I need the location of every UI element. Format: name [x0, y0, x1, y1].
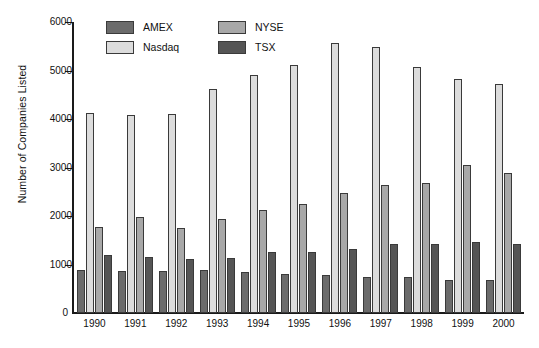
bar-amex-1990: [77, 270, 85, 313]
bar-amex-1996: [322, 275, 330, 313]
bar-nasdaq-1996: [331, 43, 339, 313]
bar-nyse-1998: [422, 183, 430, 313]
bar-tsx-1995: [308, 252, 316, 313]
x-axis-label: 1993: [197, 318, 238, 329]
bar-nasdaq-1990: [86, 113, 94, 313]
bar-amex-1992: [159, 271, 167, 313]
x-axis-label: 1995: [279, 318, 320, 329]
legend-item-nasdaq: Nasdaq: [106, 38, 204, 56]
bar-tsx-1990: [104, 255, 112, 313]
bar-group: [279, 22, 320, 313]
legend-swatch-nasdaq: [106, 41, 134, 54]
bar-group: [360, 22, 401, 313]
y-axis-tick-label: 3000: [38, 163, 72, 173]
bar-nasdaq-1991: [127, 115, 135, 313]
y-axis-tick-label: 1000: [38, 260, 72, 270]
bar-group: [115, 22, 156, 313]
legend-item-nyse: NYSE: [218, 18, 316, 36]
chart-legend: AMEXNYSENasdaqTSX: [106, 18, 316, 56]
bar-group: [319, 22, 360, 313]
bar-nyse-1990: [95, 227, 103, 313]
bar-amex-1997: [363, 277, 371, 313]
x-axis-labels: 1990199119921993199419951996199719981999…: [74, 318, 524, 329]
bar-group: [401, 22, 442, 313]
y-axis-zero-label: 0: [52, 307, 68, 318]
bar-group: [197, 22, 238, 313]
bar-group: [74, 22, 115, 313]
y-axis-tick-label: 4000: [38, 114, 72, 124]
bar-amex-1995: [281, 274, 289, 313]
legend-label: NYSE: [255, 21, 284, 33]
y-axis-tick-label: 5000: [38, 66, 72, 76]
bar-tsx-1991: [145, 257, 153, 313]
x-axis-label: 1990: [74, 318, 115, 329]
legend-item-tsx: TSX: [218, 38, 316, 56]
legend-item-amex: AMEX: [106, 18, 204, 36]
legend-swatch-amex: [106, 21, 134, 34]
x-axis-label: 1992: [156, 318, 197, 329]
bar-amex-1999: [445, 280, 453, 313]
bar-tsx-1992: [186, 259, 194, 313]
x-axis-label: 1996: [319, 318, 360, 329]
bar-nasdaq-1997: [372, 47, 380, 313]
bar-nasdaq-1999: [454, 79, 462, 313]
bar-nyse-1992: [177, 228, 185, 313]
legend-label: Nasdaq: [143, 41, 179, 53]
bar-chart: Number of Companies Listed 1000200030004…: [0, 0, 539, 348]
bar-nasdaq-1998: [413, 67, 421, 313]
x-axis-label: 2000: [483, 318, 524, 329]
x-axis-label: 1991: [115, 318, 156, 329]
legend-label: TSX: [255, 41, 275, 53]
bar-amex-1998: [404, 277, 412, 313]
y-axis-tick-label: 6000: [38, 17, 72, 27]
bar-tsx-2000: [513, 244, 521, 313]
bar-amex-2000: [486, 280, 494, 313]
bar-nasdaq-1994: [250, 75, 258, 313]
bar-group: [156, 22, 197, 313]
bar-nasdaq-1992: [168, 114, 176, 313]
x-axis-label: 1998: [401, 318, 442, 329]
bar-group: [483, 22, 524, 313]
bar-amex-1991: [118, 271, 126, 313]
bar-amex-1994: [241, 272, 249, 313]
legend-swatch-tsx: [218, 41, 246, 54]
bar-amex-1993: [200, 270, 208, 313]
bar-nyse-1996: [340, 193, 348, 313]
x-axis-label: 1997: [360, 318, 401, 329]
x-axis-label: 1999: [442, 318, 483, 329]
bar-nyse-1997: [381, 185, 389, 313]
x-axis-label: 1994: [238, 318, 279, 329]
bar-nasdaq-1995: [290, 65, 298, 313]
legend-swatch-nyse: [218, 21, 246, 34]
legend-label: AMEX: [143, 21, 173, 33]
bar-nasdaq-2000: [495, 84, 503, 313]
bar-tsx-1999: [472, 242, 480, 313]
bar-tsx-1997: [390, 244, 398, 313]
bar-groups: [74, 22, 524, 313]
bar-nyse-2000: [504, 173, 512, 313]
bar-group: [238, 22, 279, 313]
bar-nyse-1993: [218, 219, 226, 313]
bar-tsx-1994: [268, 252, 276, 313]
bar-nyse-1995: [299, 204, 307, 313]
bar-nyse-1999: [463, 165, 471, 313]
y-axis-tick-label: 2000: [38, 211, 72, 221]
bar-tsx-1996: [349, 249, 357, 313]
bar-nyse-1991: [136, 217, 144, 314]
bar-tsx-1993: [227, 258, 235, 313]
bar-nasdaq-1993: [209, 89, 217, 313]
bar-group: [442, 22, 483, 313]
bar-tsx-1998: [431, 244, 439, 313]
bar-nyse-1994: [259, 210, 267, 313]
